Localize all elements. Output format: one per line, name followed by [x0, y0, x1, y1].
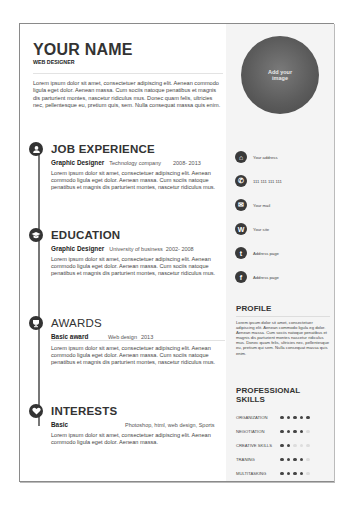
contact-label: Your address	[253, 155, 278, 160]
rating-dot-filled-icon	[293, 416, 297, 420]
skill-name: CREATIVE SKILLS	[236, 443, 280, 448]
rating-dot-filled-icon	[280, 458, 284, 462]
profile-heading: PROFILE	[236, 304, 330, 313]
rating-dot-filled-icon	[300, 472, 304, 476]
rating-dot-empty-icon	[293, 444, 297, 448]
sidebar: Add your image ⌂ Your address ✆ 111 111 …	[226, 24, 334, 481]
skill-rating	[280, 458, 313, 462]
skill-row: ORGANIZATION	[236, 415, 330, 420]
user-icon	[29, 142, 43, 156]
contact-label: Your mail	[253, 203, 270, 208]
skills-section: PROFESSIONAL SKILLS ORGANIZATIONNEGOTIAT…	[236, 386, 330, 476]
contact-label: Address page	[253, 251, 279, 256]
entry-org: Technology company	[109, 160, 161, 166]
header-divider	[33, 73, 223, 74]
rating-dot-filled-icon	[280, 430, 284, 434]
rating-dot-filled-icon	[293, 458, 297, 462]
contact-label: 111 111 111 111	[253, 179, 282, 184]
contact-address: ⌂ Your address	[235, 151, 330, 163]
rating-dot-filled-icon	[280, 472, 284, 476]
heart-icon	[29, 404, 43, 418]
rating-dot-filled-icon	[293, 430, 297, 434]
section-title: INTERESTS	[51, 405, 117, 417]
entry-org: University of business	[109, 246, 163, 252]
rating-dot-filled-icon	[287, 430, 291, 434]
mail-icon: ✉	[235, 199, 247, 211]
contact-mail: ✉ Your mail	[235, 199, 330, 211]
section-interests: INTERESTS Basic Photoshop, html, web des…	[29, 404, 225, 446]
section-title: AWARDS	[51, 317, 102, 329]
entry-title: Basic award	[51, 333, 91, 340]
skill-rating	[280, 444, 313, 448]
rating-dot-empty-icon	[306, 472, 310, 476]
rating-dot-empty-icon	[306, 458, 310, 462]
rating-dot-filled-icon	[300, 416, 304, 420]
candidate-role: WEB DESIGNER	[33, 59, 75, 65]
contact-label: Your site	[253, 227, 269, 232]
entry-description: Lorem ipsum dolor sit amet, consectetuer…	[51, 432, 225, 446]
profile-text: Lorem ipsum dolor sit amet, consectetuer…	[236, 320, 330, 356]
rating-dot-filled-icon	[287, 472, 291, 476]
entry-years: 2013	[141, 334, 153, 340]
contact-label: Address page	[253, 275, 279, 280]
skills-heading: PROFESSIONAL SKILLS	[236, 386, 330, 404]
skill-name: MULTITASKING	[236, 471, 280, 476]
entry-title: Basic	[51, 421, 107, 428]
intro-text: Lorem ipsum dolor sit amet, consectetuer…	[33, 80, 223, 109]
contact-facebook: f Address page	[235, 271, 330, 283]
home-icon: ⌂	[235, 151, 247, 163]
rating-dot-empty-icon	[306, 444, 310, 448]
rating-dot-filled-icon	[287, 444, 291, 448]
skill-name: NEGOTIATION	[236, 429, 280, 434]
rating-dot-filled-icon	[300, 430, 304, 434]
section-job-experience: JOB EXPERIENCE Graphic Designer Technolo…	[29, 142, 225, 192]
section-education: EDUCATION Graphic Designer University of…	[29, 228, 225, 278]
rating-dot-empty-icon	[300, 444, 304, 448]
contact-twitter: t Address page	[235, 247, 330, 259]
rating-dot-filled-icon	[280, 444, 284, 448]
rating-dot-filled-icon	[293, 472, 297, 476]
profile-photo-placeholder[interactable]: Add your image	[241, 36, 319, 114]
rating-dot-filled-icon	[280, 416, 284, 420]
contact-phone: ✆ 111 111 111 111	[235, 175, 330, 187]
skill-name: ORGANIZATION	[236, 415, 280, 420]
entry-org: Web design	[108, 334, 137, 340]
rating-dot-filled-icon	[300, 458, 304, 462]
contact-list: ⌂ Your address ✆ 111 111 111 111 ✉ Your …	[235, 151, 330, 295]
section-title: JOB EXPERIENCE	[51, 143, 155, 155]
twitter-icon: t	[235, 247, 247, 259]
trophy-icon	[29, 316, 43, 330]
candidate-name: YOUR NAME	[33, 41, 133, 59]
rating-dot-filled-icon	[287, 416, 291, 420]
entry-years: 2008- 2013	[173, 160, 201, 166]
skill-rating	[280, 472, 313, 476]
resume-page: YOUR NAME WEB DESIGNER Lorem ipsum dolor…	[19, 23, 334, 482]
graduation-cap-icon	[29, 228, 43, 242]
phone-icon: ✆	[235, 175, 247, 187]
section-awards: AWARDS Basic award Web design 2013 Lorem…	[29, 316, 225, 367]
skill-row: NEGOTIATION	[236, 429, 330, 434]
skill-name: TRANING	[236, 457, 280, 462]
skill-row: TRANING	[236, 457, 330, 462]
timeline-line	[38, 151, 40, 426]
website-icon: W	[235, 223, 247, 235]
profile-section: PROFILE Lorem ipsum dolor sit amet, cons…	[236, 304, 330, 356]
entry-description: Lorem ipsum dolor sit amet, consectetuer…	[51, 170, 225, 192]
rating-dot-filled-icon	[287, 458, 291, 462]
skill-row: MULTITASKING	[236, 471, 330, 476]
profile-divider	[236, 316, 330, 317]
entry-description: Lorem ipsum dolor sit amet, consectetuer…	[51, 256, 225, 278]
rating-dot-empty-icon	[306, 430, 310, 434]
skill-rating	[280, 416, 313, 420]
photo-placeholder-label: Add your image	[263, 69, 297, 81]
entry-years: 2002- 2008	[166, 246, 194, 252]
rating-dot-filled-icon	[306, 416, 310, 420]
entry-description: Lorem ipsum dolor sit amet, consectetuer…	[51, 345, 225, 367]
section-title: EDUCATION	[51, 229, 120, 241]
entry-org: Photoshop, html, web design, Sports	[125, 422, 215, 428]
contact-website: W Your site	[235, 223, 330, 235]
skill-rating	[280, 430, 313, 434]
entry-title: Graphic Designer	[51, 159, 104, 166]
skill-row: CREATIVE SKILLS	[236, 443, 330, 448]
facebook-icon: f	[235, 271, 247, 283]
